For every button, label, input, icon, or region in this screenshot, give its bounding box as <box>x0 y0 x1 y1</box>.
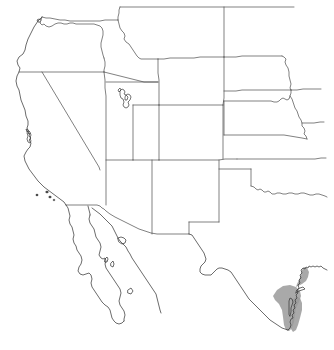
map-figure: Line outline map of the western United S… <box>0 0 334 350</box>
map-canvas <box>0 0 334 350</box>
